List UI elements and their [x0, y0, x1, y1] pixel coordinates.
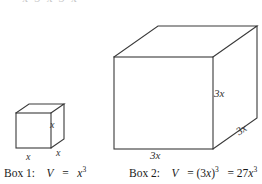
box2-caption-prefix: Box 2:	[129, 167, 160, 179]
large-cube-height-label: 3x	[214, 88, 224, 99]
box2-caption: Box 2: V = (3x)3 = 27x3	[129, 167, 257, 180]
large-cube-front-face	[114, 57, 213, 149]
box1-caption-exponent: 3	[82, 165, 86, 174]
box2-caption-exponent-1: 3	[215, 165, 219, 174]
small-cube-front-face	[16, 113, 51, 148]
box2-caption-variable: V	[172, 167, 179, 179]
box2-caption-exponent-2: 3	[253, 165, 257, 174]
small-cube-height-label: x	[50, 120, 54, 130]
box2-caption-equals-1: = (3	[187, 167, 206, 179]
box1-caption: Box 1: V = x3	[4, 167, 86, 180]
small-cube-width-label: x	[26, 152, 30, 162]
small-cube-group	[16, 104, 64, 148]
box1-caption-prefix: Box 1:	[4, 167, 35, 179]
box2-caption-equals-2: = 27	[227, 167, 248, 179]
box1-caption-equals: =	[62, 167, 69, 179]
large-cube-width-label: 3x	[150, 150, 160, 161]
box1-caption-variable: V	[47, 167, 54, 179]
cube-volume-figure: x 3 x 3 x x x x 3x 3x 3x Box 1:	[0, 0, 262, 184]
small-cube-depth-label: x	[56, 148, 60, 158]
